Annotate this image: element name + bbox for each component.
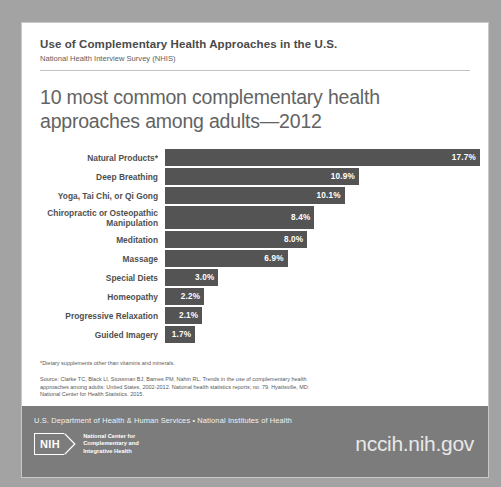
bar-category-label: Chiropractic or Osteopathic Manipulation [22, 206, 165, 229]
bar: 10.9% [165, 168, 359, 185]
bar: 8.4% [165, 206, 314, 229]
bar-track: 8.4% [165, 206, 488, 229]
bar-value-label: 3.0% [195, 273, 214, 282]
chart-row: Homeopathy2.2% [22, 288, 488, 305]
bar: 2.2% [165, 288, 204, 305]
chart-row: Yoga, Tai Chi, or Qi Gong10.1% [22, 187, 488, 204]
bar-value-label: 1.7% [172, 330, 191, 339]
bar-chart: Natural Products*17.7%Deep Breathing10.9… [22, 149, 488, 343]
bar-category-label: Massage [22, 250, 165, 267]
bar-category-label: Progressive Relaxation [22, 307, 165, 324]
bar-value-label: 8.0% [284, 235, 303, 244]
bar-value-label: 6.9% [264, 254, 283, 263]
chart-source: Source: Clarke TC, Black LI, Stussman BJ… [40, 376, 318, 399]
chart-row: Meditation8.0% [22, 231, 488, 248]
bar: 3.0% [165, 269, 218, 286]
bar-track: 3.0% [165, 269, 488, 286]
bar-category-label: Guided Imagery [22, 326, 165, 343]
bar: 2.1% [165, 307, 202, 324]
header-divider [40, 70, 470, 71]
bar-category-label: Natural Products* [22, 149, 165, 166]
chart-row: Guided Imagery1.7% [22, 326, 488, 343]
chart-row: Progressive Relaxation2.1% [22, 307, 488, 324]
bar-track: 10.1% [165, 187, 488, 204]
footer-body: NIH National Center for Complementary an… [22, 425, 488, 456]
bar-category-label: Homeopathy [22, 288, 165, 305]
bar: 8.0% [165, 231, 307, 248]
bar-category-label: Meditation [22, 231, 165, 248]
bar-value-label: 10.9% [331, 172, 355, 181]
header-title: Use of Complementary Health Approaches i… [40, 37, 470, 51]
nih-wordmark: NIH [40, 439, 60, 450]
bar-category-label: Special Diets [22, 269, 165, 286]
bar-track: 10.9% [165, 168, 488, 185]
footer-website-url: nccih.nih.gov [355, 432, 474, 456]
footer-agency-line: U.S. Department of Health & Human Servic… [22, 406, 488, 425]
bar-track: 8.0% [165, 231, 488, 248]
bar-track: 2.2% [165, 288, 488, 305]
bar-value-label: 2.2% [181, 292, 200, 301]
bar: 17.7% [165, 149, 480, 166]
bar-track: 2.1% [165, 307, 488, 324]
bar-value-label: 10.1% [317, 191, 341, 200]
chart-row: Special Diets3.0% [22, 269, 488, 286]
nih-logo: NIH National Center for Complementary an… [34, 433, 139, 455]
notes-block: *Dietary supplements other than vitamins… [40, 359, 470, 399]
nih-logo-box: NIH [34, 433, 64, 455]
chart-footnote: *Dietary supplements other than vitamins… [40, 359, 470, 367]
chart-row: Chiropractic or Osteopathic Manipulation… [22, 206, 488, 229]
page-title: 10 most common complementary health appr… [40, 85, 470, 133]
bar-value-label: 17.7% [452, 153, 476, 162]
poster-header: Use of Complementary Health Approaches i… [22, 23, 488, 71]
header-subtitle: National Health Interview Survey (NHIS) [40, 54, 470, 64]
chart-row: Deep Breathing10.9% [22, 168, 488, 185]
bar: 10.1% [165, 187, 345, 204]
bar-track: 1.7% [165, 326, 488, 343]
poster-card: Use of Complementary Health Approaches i… [22, 23, 488, 477]
chevron-right-icon [64, 433, 76, 455]
bar-track: 17.7% [165, 149, 488, 166]
bar: 1.7% [165, 326, 195, 343]
chart-row: Massage6.9% [22, 250, 488, 267]
bar-value-label: 2.1% [179, 311, 198, 320]
bar-track: 6.9% [165, 250, 488, 267]
bar-category-label: Yoga, Tai Chi, or Qi Gong [22, 187, 165, 204]
bar-value-label: 8.4% [291, 213, 310, 222]
bar-category-label: Deep Breathing [22, 168, 165, 185]
nccih-center-name: National Center for Complementary and In… [83, 433, 139, 455]
poster-footer: U.S. Department of Health & Human Servic… [22, 406, 488, 477]
bar: 6.9% [165, 250, 288, 267]
chart-row: Natural Products*17.7% [22, 149, 488, 166]
